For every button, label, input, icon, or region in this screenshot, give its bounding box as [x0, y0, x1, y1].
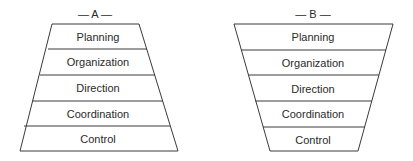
diagram-b-title: — B —	[295, 8, 330, 20]
layer-organization: Organization	[282, 57, 344, 69]
layer-planning: Planning	[77, 31, 120, 43]
diagram-a: — A — Planning Organization Direction Co…	[20, 8, 178, 151]
layer-direction: Direction	[76, 82, 119, 94]
diagram-canvas: — A — Planning Organization Direction Co…	[0, 0, 413, 161]
diagram-a-title: — A —	[78, 8, 112, 20]
layer-planning: Planning	[292, 31, 335, 43]
layer-coordination: Coordination	[282, 108, 344, 120]
layer-control: Control	[295, 134, 330, 146]
diagram-b: — B — Planning Organization Direction Co…	[234, 8, 393, 151]
layer-control: Control	[80, 133, 115, 145]
layer-coordination: Coordination	[67, 108, 129, 120]
layer-direction: Direction	[291, 83, 334, 95]
layer-organization: Organization	[67, 56, 129, 68]
